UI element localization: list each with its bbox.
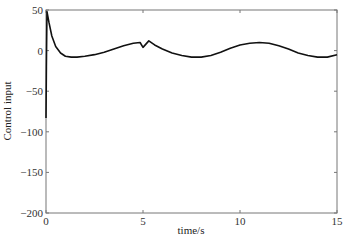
y-tick-label: −150 <box>20 166 43 178</box>
y-tick-label: 0 <box>38 45 44 57</box>
y-tick-label: 50 <box>32 4 44 16</box>
x-tick-label: 5 <box>140 215 146 227</box>
x-tick-label: 15 <box>332 215 344 227</box>
axes-frame <box>46 10 337 213</box>
y-tick-label: −50 <box>26 85 44 97</box>
y-axis-label: Control input <box>1 82 13 141</box>
chart: 051015500−50−100−150−200 time/s Control … <box>0 0 352 244</box>
y-tick-label: −200 <box>20 207 43 219</box>
control-input-line <box>46 12 337 118</box>
tick-labels: 051015500−50−100−150−200 <box>20 4 343 227</box>
x-tick-label: 10 <box>235 215 247 227</box>
x-axis-label: time/s <box>178 224 205 236</box>
axis-ticks <box>46 10 337 213</box>
axes-box <box>46 10 337 213</box>
x-tick-label: 0 <box>43 215 49 227</box>
y-tick-label: −100 <box>20 126 43 138</box>
